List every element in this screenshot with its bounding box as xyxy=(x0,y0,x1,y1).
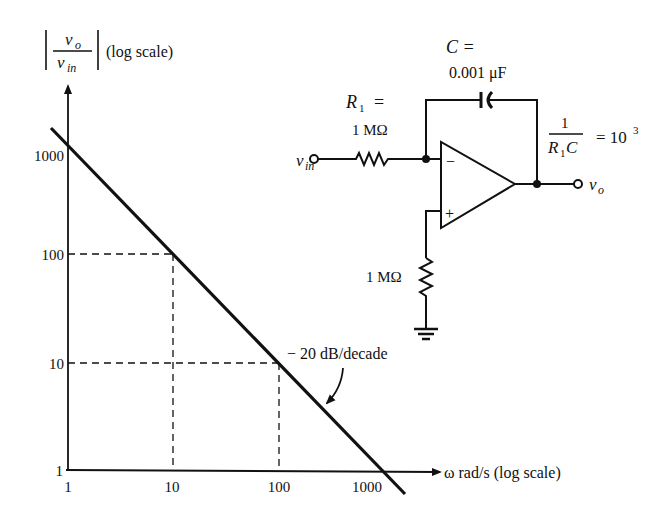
y-label-denominator: v xyxy=(57,53,65,72)
x-tick-1: 1 xyxy=(64,479,72,495)
x-tick-100: 100 xyxy=(268,479,291,495)
capacitor-value: 0.001 μF xyxy=(449,64,507,82)
y-tick-labels: 1000 100 10 1 xyxy=(34,148,64,479)
output-terminal xyxy=(574,180,582,188)
x-tick-10: 10 xyxy=(165,479,180,495)
ground-icon xyxy=(414,329,438,339)
gain-denominator-sub: 1 xyxy=(560,147,566,159)
x-tick-labels: 1 10 100 1000 xyxy=(64,479,382,495)
x-tick-1000: 1000 xyxy=(352,479,382,495)
input-terminal xyxy=(310,155,318,163)
reference-dashes xyxy=(68,254,279,471)
slope-pointer-arrow xyxy=(327,368,343,403)
gain-denominator-c: C xyxy=(566,138,578,157)
gain-equals: = 10 xyxy=(596,128,627,147)
gain-exponent: 3 xyxy=(633,124,639,136)
y-label-suffix: (log scale) xyxy=(106,43,173,61)
r1-value: 1 MΩ xyxy=(352,122,388,138)
output-label-sub: o xyxy=(598,183,604,197)
figure-canvas: v o v in (log scale) 1000 100 10 1 1 10 … xyxy=(0,0,664,518)
gain-numerator: 1 xyxy=(561,115,569,131)
output-node xyxy=(533,180,541,188)
y-axis-label: v o v in (log scale) xyxy=(46,30,173,75)
noninverting-input-sign: + xyxy=(445,205,454,222)
x-axis-label: ω rad/s (log scale) xyxy=(444,464,561,482)
integrator-circuit: C = 0.001 μF R 1 = 1 MΩ v in − + v o 1 xyxy=(296,37,639,339)
y-tick-1: 1 xyxy=(56,463,64,479)
y-tick-10: 10 xyxy=(49,356,64,372)
y-label-denominator-sub: in xyxy=(67,61,76,75)
r1-resistor xyxy=(318,153,426,165)
response-line xyxy=(51,128,405,494)
capacitor-label: C = xyxy=(446,37,475,57)
noninverting-wire xyxy=(426,211,441,258)
y-label-numerator-sub: o xyxy=(75,38,81,52)
output-label: v xyxy=(589,175,597,194)
r2-value: 1 MΩ xyxy=(366,269,402,285)
y-tick-100: 100 xyxy=(42,247,65,263)
r1-label-sub: 1 xyxy=(359,102,365,114)
inverting-input-sign: − xyxy=(446,153,455,170)
y-tick-1000: 1000 xyxy=(34,148,64,164)
input-label: v xyxy=(296,151,304,170)
r2-resistor xyxy=(420,258,432,328)
r1-label: R xyxy=(345,92,357,112)
r1-label-eq: = xyxy=(374,92,384,112)
slope-annotation: − 20 dB/decade xyxy=(287,345,388,362)
y-label-numerator: v xyxy=(65,30,73,49)
gain-denominator-r: R xyxy=(547,138,559,157)
